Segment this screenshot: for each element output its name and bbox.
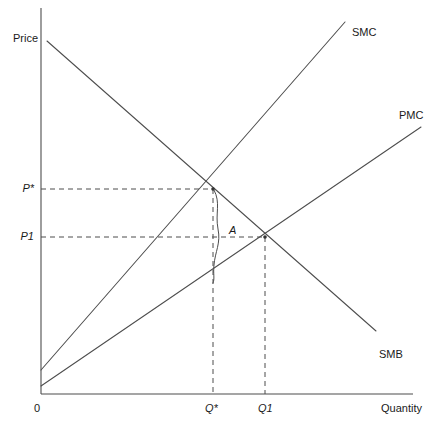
curves-group: [41, 22, 421, 386]
x-axis-label: Quantity: [381, 403, 422, 414]
equilibrium-points-group: [211, 187, 267, 239]
annotation-label-a: A: [229, 225, 236, 236]
x-tick-label-q-star: Q*: [205, 403, 218, 414]
externality-chart-figure: Price P* P1 0 Q* Q1 Quantity SMC PMC SMB…: [0, 0, 436, 443]
smc-curve: [41, 22, 345, 370]
market-equilibrium-point: [263, 235, 267, 239]
y-tick-label-p-star: P*: [4, 183, 34, 194]
chart-canvas: [0, 0, 436, 443]
y-axis-label: Price: [4, 33, 38, 44]
axis-group: [41, 8, 413, 394]
smb-curve: [47, 41, 376, 331]
origin-label: 0: [34, 403, 40, 414]
curve-label-smc: SMC: [352, 27, 376, 38]
x-tick-label-q1: Q1: [258, 403, 273, 414]
curve-label-smb: SMB: [379, 349, 403, 360]
y-tick-label-p1: P1: [4, 231, 34, 242]
pmc-curve: [41, 127, 421, 386]
curve-label-pmc: PMC: [399, 110, 423, 121]
